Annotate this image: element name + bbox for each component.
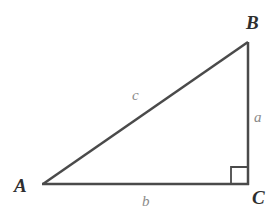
figure-background (0, 0, 280, 224)
side-label-a: a (254, 110, 262, 125)
side-label-c: c (132, 88, 139, 103)
side-label-b: b (142, 194, 150, 209)
triangle-drawing (0, 0, 280, 224)
vertex-label-a: A (14, 176, 27, 195)
right-triangle-figure: A B C a b c (0, 0, 280, 224)
vertex-label-b: B (246, 13, 259, 32)
vertex-label-c: C (252, 188, 265, 207)
